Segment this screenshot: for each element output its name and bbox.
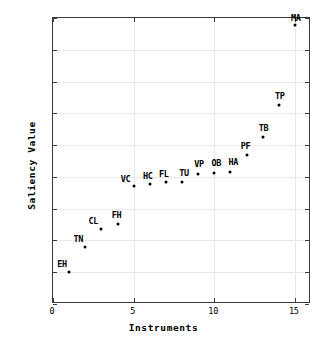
- data-point: [245, 153, 248, 156]
- y-tick-mark-right: [305, 50, 309, 51]
- data-point: [197, 172, 200, 175]
- y-tick-mark: [53, 304, 57, 305]
- x-tick-mark: [214, 298, 215, 302]
- data-point: [68, 271, 71, 274]
- data-point: [132, 184, 135, 187]
- x-tick-label: 15: [289, 306, 299, 316]
- data-point-label: TB: [259, 124, 269, 133]
- data-point: [229, 171, 232, 174]
- data-point: [116, 222, 119, 225]
- saliency-scatter-figure: EHTNCLFHVCHCFLTUVPOBHAPFTBTPMA 0.50.40.3…: [0, 0, 327, 345]
- data-point-label: HA: [229, 158, 239, 167]
- data-point: [100, 228, 103, 231]
- data-point-label: VC: [121, 174, 131, 183]
- y-tick-mark-right: [305, 209, 309, 210]
- x-tick-label: 0: [50, 306, 55, 316]
- y-tick-mark: [53, 177, 57, 178]
- y-tick-mark: [53, 113, 57, 114]
- data-point-label: VP: [194, 159, 204, 168]
- y-tick-mark: [53, 82, 57, 83]
- data-point: [213, 172, 216, 175]
- y-tick-mark-right: [305, 113, 309, 114]
- gridline-horizontal: [53, 209, 309, 210]
- data-point: [277, 104, 280, 107]
- data-point-label: TN: [73, 234, 83, 243]
- y-tick-mark: [53, 145, 57, 146]
- plot-area: EHTNCLFHVCHCFLTUVPOBHAPFTBTPMA: [52, 17, 310, 303]
- data-point-label: OB: [211, 159, 221, 168]
- y-tick-mark: [53, 272, 57, 273]
- x-tick-label: 5: [130, 306, 135, 316]
- gridline-horizontal: [53, 50, 309, 51]
- gridline-horizontal: [53, 82, 309, 83]
- data-point-label: FL: [159, 170, 169, 179]
- data-point: [181, 180, 184, 183]
- x-tick-mark-top: [53, 18, 54, 22]
- y-tick-mark-right: [305, 272, 309, 273]
- data-point-label: EH: [57, 260, 67, 269]
- gridline-vertical: [134, 18, 135, 302]
- y-tick-mark-right: [305, 240, 309, 241]
- x-tick-mark: [53, 298, 54, 302]
- y-tick-mark: [53, 50, 57, 51]
- y-tick-mark-right: [305, 177, 309, 178]
- y-tick-mark-right: [305, 145, 309, 146]
- y-tick-mark: [53, 209, 57, 210]
- y-tick-mark-right: [305, 18, 309, 19]
- data-point: [164, 181, 167, 184]
- y-tick-mark: [53, 240, 57, 241]
- y-tick-mark-right: [305, 82, 309, 83]
- data-point-label: HC: [143, 172, 153, 181]
- gridline-horizontal: [53, 272, 309, 273]
- data-point: [261, 136, 264, 139]
- data-point-label: TU: [179, 168, 189, 177]
- data-point: [293, 23, 296, 26]
- x-tick-label: 10: [208, 306, 218, 316]
- x-tick-mark: [134, 298, 135, 302]
- y-tick-mark-right: [305, 304, 309, 305]
- x-tick-mark-top: [214, 18, 215, 22]
- y-axis-label: Saliency Value: [26, 86, 37, 246]
- data-point-label: CL: [89, 217, 99, 226]
- gridline-horizontal: [53, 240, 309, 241]
- x-axis-label: Instruments: [0, 322, 327, 333]
- data-point-label: TP: [275, 92, 285, 101]
- data-point: [148, 183, 151, 186]
- data-point-label: FH: [112, 210, 122, 219]
- data-point: [84, 245, 87, 248]
- gridline-horizontal: [53, 113, 309, 114]
- data-point-label: MA: [291, 13, 301, 22]
- gridline-vertical: [295, 18, 296, 302]
- x-tick-mark-top: [134, 18, 135, 22]
- gridline-horizontal: [53, 145, 309, 146]
- data-point-label: PF: [241, 141, 251, 150]
- x-tick-mark: [295, 298, 296, 302]
